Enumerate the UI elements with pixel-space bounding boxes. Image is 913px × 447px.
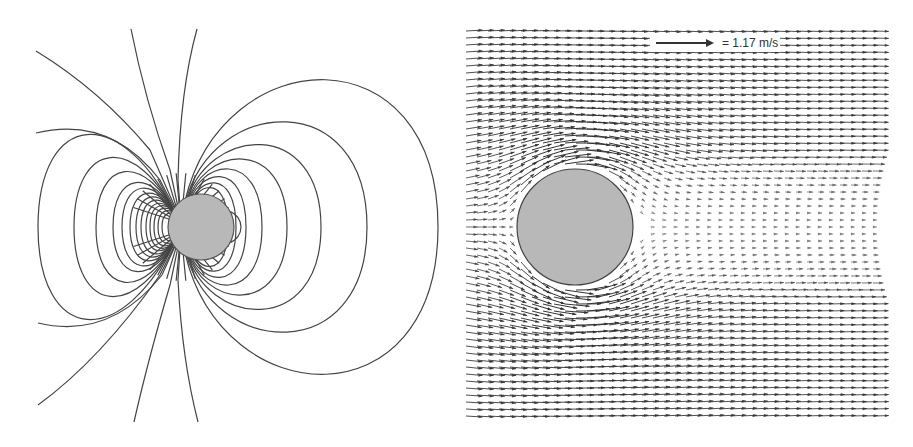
- field-line: [38, 233, 181, 327]
- field-lines: [36, 29, 438, 422]
- obstacle-circle: [517, 169, 633, 285]
- field-line: [74, 157, 179, 296]
- velocity-field-panel: = 1.17 m/s: [460, 0, 913, 447]
- field-lines-plot: [0, 0, 460, 447]
- reference-vector-legend: = 1.17 m/s: [650, 34, 780, 52]
- field-line: [36, 129, 181, 221]
- field-line: [38, 233, 181, 405]
- reference-arrow-icon: [656, 42, 712, 44]
- velocity-vector-plot: [460, 0, 913, 447]
- obstacle-circle: [168, 194, 234, 260]
- field-lines-panel: [0, 0, 460, 447]
- reference-speed-label: = 1.17 m/s: [722, 36, 778, 50]
